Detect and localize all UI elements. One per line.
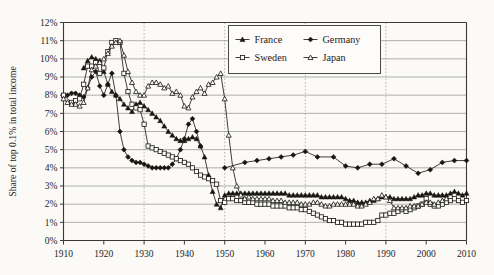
chart-figure: 0%1%2%3%4%5%6%7%8%9%10%11%12% 1910192019…	[0, 0, 494, 275]
series-line	[84, 57, 467, 208]
series-france	[81, 55, 469, 210]
data-point-marker	[380, 213, 384, 217]
series-germany	[61, 69, 469, 176]
data-point-marker	[190, 166, 194, 170]
data-point-marker	[138, 108, 142, 112]
data-point-marker	[109, 71, 114, 76]
data-point-marker	[226, 133, 231, 138]
data-point-marker	[219, 198, 223, 202]
data-point-marker	[138, 100, 143, 105]
x-tick-label: 1930	[135, 249, 154, 259]
data-point-marker	[227, 197, 231, 201]
data-point-marker	[158, 149, 162, 153]
data-point-marker	[460, 200, 464, 204]
data-point-marker	[275, 204, 279, 208]
x-tick-label: 1990	[376, 249, 395, 259]
y-tick-label: 1%	[45, 218, 58, 228]
data-point-marker	[263, 202, 267, 206]
data-point-marker	[178, 158, 182, 162]
data-point-marker	[271, 204, 275, 208]
data-point-marker	[170, 155, 174, 159]
data-point-marker	[392, 211, 396, 215]
data-point-marker	[242, 160, 247, 165]
data-point-marker	[255, 202, 259, 206]
data-point-marker	[166, 153, 170, 157]
y-tick-label: 12%	[40, 18, 58, 28]
data-point-marker	[376, 218, 380, 222]
data-point-marker	[303, 207, 307, 211]
data-point-marker	[210, 178, 214, 182]
chart-legend: FranceGermanySwedenJapan	[229, 26, 381, 74]
data-point-marker	[174, 89, 179, 94]
data-point-marker	[291, 153, 296, 158]
data-point-marker	[198, 85, 203, 90]
legend-label: France	[255, 34, 283, 45]
data-point-marker	[134, 89, 139, 94]
data-point-marker	[315, 213, 319, 217]
data-point-marker	[101, 93, 106, 98]
data-point-marker	[117, 129, 122, 134]
data-point-marker	[126, 89, 130, 93]
data-point-marker	[215, 182, 219, 186]
x-tick-label: 1940	[175, 249, 194, 259]
data-point-marker	[174, 157, 178, 161]
data-point-marker	[299, 207, 303, 211]
data-point-marker	[291, 206, 295, 210]
x-tick-label: 1980	[336, 249, 355, 259]
x-axis-tick-labels: 1910192019301940195019601970198019902000…	[54, 249, 476, 259]
data-point-marker	[98, 71, 102, 75]
data-point-marker	[254, 158, 259, 163]
x-tick-label: 1950	[215, 249, 234, 259]
data-point-marker	[352, 222, 356, 226]
data-point-marker	[235, 198, 239, 202]
data-point-marker	[202, 154, 207, 159]
data-point-marker	[440, 160, 445, 165]
data-point-marker	[182, 160, 186, 164]
data-point-marker	[331, 218, 335, 222]
data-point-marker	[464, 198, 468, 202]
y-tick-label: 2%	[45, 199, 58, 209]
data-point-marker	[102, 66, 106, 70]
data-point-marker	[109, 89, 114, 94]
data-point-marker	[348, 222, 352, 226]
data-point-marker	[452, 189, 457, 194]
data-point-marker	[311, 211, 315, 215]
data-point-marker	[339, 220, 343, 224]
data-point-marker	[178, 147, 183, 152]
y-axis-tick-labels: 0%1%2%3%4%5%6%7%8%9%10%11%12%	[40, 18, 58, 246]
y-tick-label: 10%	[40, 54, 58, 64]
data-point-marker	[368, 220, 372, 224]
x-tick-label: 1960	[256, 249, 275, 259]
x-axis-ticks	[64, 241, 467, 245]
data-point-marker	[198, 173, 202, 177]
data-point-marker	[162, 151, 166, 155]
data-point-marker	[456, 198, 460, 202]
data-point-marker	[279, 154, 284, 159]
data-point-marker	[186, 162, 190, 166]
data-point-marker	[146, 144, 150, 148]
data-point-marker	[464, 158, 469, 163]
data-point-marker	[372, 220, 376, 224]
data-point-marker	[190, 134, 195, 139]
data-point-marker	[267, 156, 272, 161]
legend-label: Germany	[323, 34, 362, 45]
data-point-marker	[355, 165, 360, 170]
data-point-marker	[323, 217, 327, 221]
data-point-marker	[319, 215, 323, 219]
y-tick-label: 4%	[45, 163, 58, 173]
y-tick-label: 7%	[45, 109, 58, 119]
data-point-marker	[464, 191, 469, 196]
data-point-marker	[231, 197, 235, 201]
y-tick-label: 5%	[45, 145, 58, 155]
data-point-marker	[384, 213, 388, 217]
data-point-marker	[222, 96, 227, 101]
x-tick-label: 1910	[54, 249, 73, 259]
data-point-marker	[194, 129, 199, 134]
data-point-marker	[223, 200, 227, 204]
data-point-marker	[121, 147, 126, 152]
data-point-marker	[307, 209, 311, 213]
data-point-marker	[379, 162, 384, 167]
x-tick-label: 2010	[457, 249, 476, 259]
data-point-marker	[379, 193, 384, 198]
data-point-marker	[452, 158, 457, 163]
